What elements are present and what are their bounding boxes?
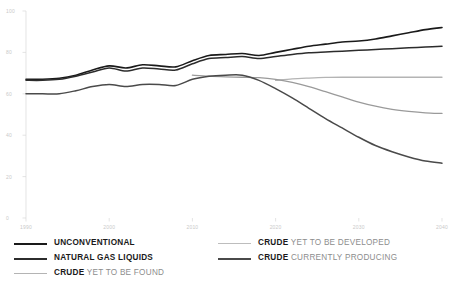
legend-swatch bbox=[14, 243, 47, 245]
legend-item[interactable]: CRUDE YET TO BE DEVELOPED bbox=[218, 236, 397, 251]
x-axis-tick-label: 2030 bbox=[353, 224, 365, 230]
legend-swatch bbox=[218, 243, 251, 244]
series-line bbox=[26, 28, 442, 80]
legend-item[interactable]: NATURAL GAS LIQUIDS bbox=[14, 251, 164, 266]
legend-label: CRUDE YET TO BE FOUND bbox=[54, 269, 164, 277]
legend-swatch bbox=[14, 258, 47, 260]
legend-swatch bbox=[218, 258, 251, 260]
x-axis-tick-label: 2020 bbox=[270, 224, 282, 230]
legend-label: CRUDE CURRENTLY PRODUCING bbox=[258, 254, 397, 262]
legend-label-plain: CURRENTLY PRODUCING bbox=[288, 253, 397, 262]
legend-swatch bbox=[14, 273, 47, 274]
legend-label: NATURAL GAS LIQUIDS bbox=[54, 254, 153, 262]
chart-legend: UNCONVENTIONALNATURAL GAS LIQUIDSCRUDE Y… bbox=[0, 236, 453, 282]
legend-column-left: UNCONVENTIONALNATURAL GAS LIQUIDSCRUDE Y… bbox=[14, 236, 164, 281]
legend-label-plain: YET TO BE DEVELOPED bbox=[288, 238, 390, 247]
legend-item[interactable]: CRUDE YET TO BE FOUND bbox=[14, 266, 164, 281]
y-axis-tick-label: 40 bbox=[6, 132, 12, 138]
x-axis-tick-label: 2010 bbox=[186, 224, 198, 230]
y-axis-tick-label: 60 bbox=[6, 91, 12, 97]
y-axis-tick-label: 80 bbox=[6, 49, 12, 55]
series-line bbox=[26, 75, 442, 163]
legend-item[interactable]: UNCONVENTIONAL bbox=[14, 236, 164, 251]
x-axis-tick-label: 2040 bbox=[436, 224, 448, 230]
legend-label-bold: CRUDE bbox=[54, 268, 84, 277]
legend-label-bold: CRUDE bbox=[258, 253, 288, 262]
line-chart-plot: 100806040200199020002010202020302040 bbox=[0, 0, 453, 236]
legend-label-bold: NATURAL GAS LIQUIDS bbox=[54, 253, 153, 262]
legend-label: CRUDE YET TO BE DEVELOPED bbox=[258, 239, 390, 247]
y-axis-tick-label: 100 bbox=[6, 8, 15, 14]
legend-label: UNCONVENTIONAL bbox=[54, 239, 135, 247]
x-axis-tick-label: 2000 bbox=[103, 224, 115, 230]
series-line bbox=[192, 75, 442, 113]
series-line bbox=[276, 77, 442, 80]
legend-label-bold: UNCONVENTIONAL bbox=[54, 238, 135, 247]
legend-label-plain: YET TO BE FOUND bbox=[84, 268, 164, 277]
y-axis-tick-label: 20 bbox=[6, 174, 12, 180]
legend-item[interactable]: CRUDE CURRENTLY PRODUCING bbox=[218, 251, 397, 266]
legend-label-bold: CRUDE bbox=[258, 238, 288, 247]
legend-column-right: CRUDE YET TO BE DEVELOPEDCRUDE CURRENTLY… bbox=[218, 236, 397, 266]
y-axis-tick-label: 0 bbox=[6, 215, 9, 221]
x-axis-tick-label: 1990 bbox=[20, 224, 32, 230]
